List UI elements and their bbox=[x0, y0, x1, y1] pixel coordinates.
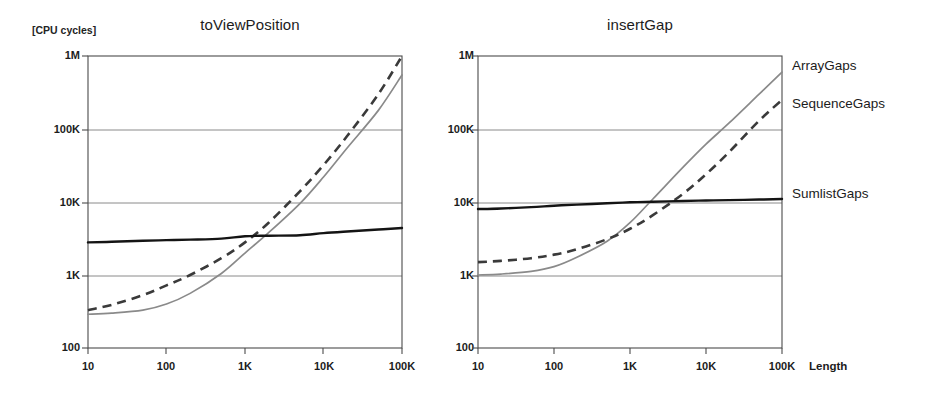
series-line-arraygaps-left bbox=[88, 75, 402, 314]
series-line-arraygaps-right bbox=[478, 72, 782, 275]
panel-insertgap: insertGap 1M 100K 10K 1K 100 10 100 1K 1… bbox=[390, 0, 940, 403]
plot-frame-left bbox=[88, 56, 402, 348]
plot-right bbox=[390, 0, 940, 403]
series-line-sumlistgaps-right bbox=[478, 199, 782, 209]
series-line-sequencegaps-right bbox=[478, 100, 782, 262]
series-line-sequencegaps-left bbox=[88, 56, 402, 310]
series-line-sumlistgaps-left bbox=[88, 228, 402, 242]
figure-root: [CPU cycles] toViewPosition 1M 100K 10K … bbox=[0, 0, 940, 403]
